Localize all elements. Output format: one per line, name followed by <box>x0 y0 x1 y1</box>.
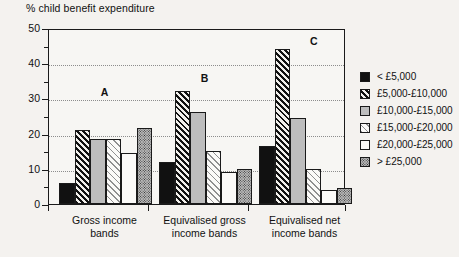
legend-swatch-icon <box>360 106 370 116</box>
legend-swatch-icon <box>360 140 370 150</box>
plot-area <box>48 29 345 205</box>
bar <box>75 130 91 204</box>
x-tick <box>248 205 249 211</box>
bar <box>321 190 337 204</box>
bar <box>290 118 306 204</box>
group-label-b: B <box>201 72 209 84</box>
legend-item-label: £20,000-£25,000 <box>377 139 453 150</box>
x-tick <box>148 205 149 211</box>
legend-item-label: < £5,000 <box>377 71 416 82</box>
chart-axis-title: % child benefit expenditure <box>26 2 155 14</box>
bar <box>237 169 253 204</box>
bar <box>137 128 153 204</box>
y-tick-label: 20 <box>6 128 40 140</box>
bar <box>206 151 222 204</box>
legend-item-label: £10,000-£15,000 <box>377 105 453 116</box>
bar <box>259 146 275 204</box>
legend-swatch-icon <box>360 72 370 82</box>
bar <box>337 188 353 204</box>
y-tick-label: 30 <box>6 92 40 104</box>
legend-item[interactable]: £5,000-£10,000 <box>360 85 453 102</box>
bar <box>221 172 237 204</box>
group-label-c: C <box>310 35 318 47</box>
bar <box>121 153 137 204</box>
bar <box>90 139 106 204</box>
legend-item[interactable]: £10,000-£15,000 <box>360 102 453 119</box>
legend-item-label: £15,000-£20,000 <box>377 122 453 133</box>
legend-swatch-icon <box>360 157 370 167</box>
legend-swatch-icon <box>360 89 370 99</box>
legend-item[interactable]: £15,000-£20,000 <box>360 119 453 136</box>
y-tick-label: 0 <box>6 198 40 210</box>
bar <box>306 169 322 204</box>
legend-swatch-icon <box>360 123 370 133</box>
y-tick-label: 50 <box>6 22 40 34</box>
y-axis-labels: 01020304050 <box>0 0 40 257</box>
x-category-line: income bands <box>245 227 365 240</box>
group-label-a: A <box>101 86 109 98</box>
x-category-label: Equivalised netincome bands <box>245 214 365 239</box>
bars-layer <box>49 30 344 204</box>
bar <box>190 112 206 204</box>
y-tick-label: 40 <box>6 57 40 69</box>
x-tick <box>345 205 346 211</box>
x-category-line: Equivalised net <box>245 214 365 227</box>
y-tick-label: 10 <box>6 163 40 175</box>
legend-item[interactable]: > £25,000 <box>360 153 453 170</box>
legend-item-label: > £25,000 <box>377 156 422 167</box>
bar <box>275 49 291 204</box>
bar <box>59 183 75 204</box>
bar <box>159 162 175 204</box>
bar <box>175 91 191 204</box>
x-tick <box>48 205 49 211</box>
legend: < £5,000£5,000-£10,000£10,000-£15,000£15… <box>360 68 453 170</box>
legend-item[interactable]: £20,000-£25,000 <box>360 136 453 153</box>
legend-item[interactable]: < £5,000 <box>360 68 453 85</box>
bar <box>106 139 122 204</box>
legend-item-label: £5,000-£10,000 <box>377 88 447 99</box>
